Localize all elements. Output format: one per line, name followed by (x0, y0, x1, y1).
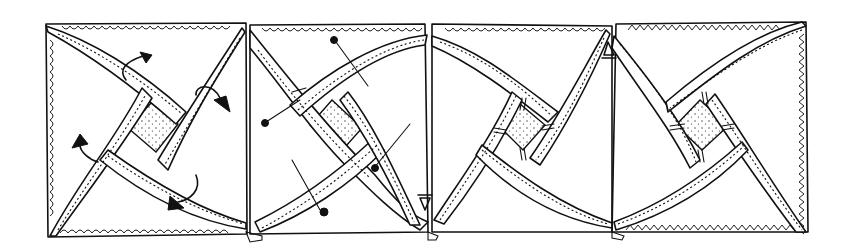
quilt-block-2 (250, 24, 432, 234)
quilt-block-3 (432, 24, 616, 232)
quilt-block-1 (46, 23, 247, 237)
quilt-drawing (0, 0, 849, 252)
woven-band (46, 26, 186, 124)
quilt-block-4 (612, 22, 808, 234)
quilt-illustration (0, 0, 849, 252)
scallop-edge-top (62, 26, 230, 29)
